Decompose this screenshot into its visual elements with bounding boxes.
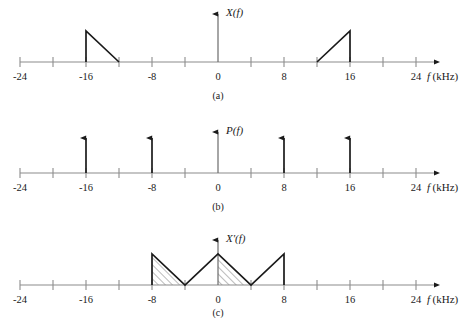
- panel-b-tick-label-neg16: -16: [79, 182, 93, 193]
- panel-b-axis-label: f(kHz): [427, 181, 459, 194]
- panel-a-right-triangle: [317, 31, 350, 62]
- panel-c: -24 -16 -8 0 8 16 24 f(kHz) X'(f) (c): [13, 232, 459, 318]
- panel-b-tick-label-neg8: -8: [148, 182, 157, 193]
- panel-b-caption: (b): [212, 201, 224, 213]
- panel-c-tick-label-neg16: -16: [79, 294, 93, 305]
- panel-b-axis-label-f: f: [427, 181, 432, 193]
- panel-a-tick-label-0: 0: [215, 71, 220, 82]
- panel-a-tick-label-16: 16: [345, 71, 356, 82]
- panel-a: -24 -16 -8 0 8 16 24 f(kHz) X(f) (a): [13, 6, 459, 102]
- panel-b-function-label: P(f): [225, 124, 243, 137]
- panel-b-tick-label-24: 24: [411, 182, 422, 193]
- panel-a-axis-label: f(kHz): [427, 70, 459, 83]
- panel-b-function-arg: (f): [233, 124, 244, 137]
- panel-a-function-label: X(f): [225, 6, 243, 19]
- panel-c-tick-label-8: 8: [281, 294, 286, 305]
- panel-c-axis-label: f(kHz): [427, 293, 459, 306]
- panel-c-caption: (c): [212, 307, 223, 318]
- panel-b: -24 -16 -8 0 8 16 24 f(kHz) P(f) (b): [13, 124, 459, 213]
- panel-c-tick-label-neg8: -8: [148, 294, 157, 305]
- panel-c-tick-label-24: 24: [411, 294, 422, 305]
- panel-a-tick-label-neg24: -24: [13, 71, 28, 82]
- panel-b-axis-label-unit: (kHz): [433, 181, 459, 194]
- panel-a-left-triangle: [86, 31, 119, 62]
- panel-c-axis-label-unit: (kHz): [433, 293, 459, 306]
- panel-a-caption: (a): [212, 90, 223, 102]
- panel-b-tick-label-0: 0: [215, 182, 220, 193]
- panel-a-tick-label-neg16: -16: [79, 71, 93, 82]
- panel-c-function-arg: (f): [235, 232, 246, 245]
- panel-c-axis-label-f: f: [427, 293, 432, 305]
- panel-c-tick-label-0: 0: [215, 294, 220, 305]
- panel-c-tick-label-16: 16: [345, 294, 356, 305]
- panel-a-tick-label-8: 8: [281, 71, 286, 82]
- panel-a-function-arg: (f): [233, 6, 244, 19]
- panel-a-axis-label-f: f: [427, 70, 432, 82]
- panel-a-tick-label-neg8: -8: [148, 71, 157, 82]
- panel-a-tick-label-24: 24: [411, 71, 422, 82]
- panel-b-tick-label-16: 16: [345, 182, 356, 193]
- signal-spectra-figure: -24 -16 -8 0 8 16 24 f(kHz) X(f) (a): [0, 0, 473, 318]
- panel-b-tick-label-neg24: -24: [13, 182, 28, 193]
- panel-c-function-label: X'(f): [225, 232, 246, 245]
- panel-b-tick-label-8: 8: [281, 182, 286, 193]
- figure-canvas: -24 -16 -8 0 8 16 24 f(kHz) X(f) (a): [0, 0, 473, 318]
- panel-c-tick-label-neg24: -24: [13, 294, 28, 305]
- panel-a-axis-label-unit: (kHz): [433, 70, 459, 83]
